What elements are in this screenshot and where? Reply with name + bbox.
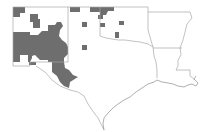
county-ok-panhandle-2: [98, 15, 103, 19]
county-ok-panhandle-3: [100, 23, 105, 27]
county-ok-southwest: [115, 32, 119, 38]
county-nm-north-central: [30, 14, 40, 28]
county-tx-panhandle-north: [70, 7, 80, 12]
county-ok-panhandle: [100, 7, 114, 15]
coastline: [103, 76, 198, 130]
county-tx-panhandle-north-2: [90, 7, 100, 12]
border-red-river: [100, 36, 153, 47]
coast-texas: [103, 80, 157, 130]
border-tx-la: [153, 47, 157, 78]
county-tx-trans-pecos: [52, 62, 78, 88]
county-nm-north-west: [13, 7, 25, 17]
border-ok-ar: [148, 7, 153, 47]
county-ok-west-isolated: [119, 21, 124, 25]
shaded-counties: [13, 7, 124, 88]
county-tx-panhandle-isolated: [82, 22, 87, 27]
border-ar-north: [148, 12, 192, 24]
border-la-east: [176, 70, 195, 80]
distribution-map: [0, 0, 213, 132]
border-mississippi: [176, 24, 187, 70]
county-tx-south-plains-isolated: [82, 45, 87, 50]
county-nm-south-central: [13, 22, 68, 62]
